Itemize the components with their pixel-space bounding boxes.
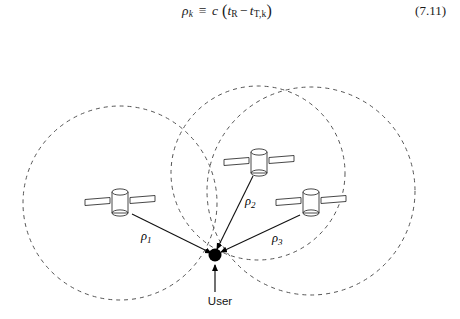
- range-label-2-symbol: ρ: [244, 194, 251, 208]
- range-vector-2: [217, 176, 253, 249]
- equation-lhs-subscript: k: [189, 9, 193, 19]
- equation-close-paren: ): [267, 2, 273, 19]
- range-label-1-symbol: ρ: [140, 229, 147, 243]
- range-label-3-index: 3: [277, 237, 283, 247]
- satellites-group: [85, 149, 346, 216]
- equation-lhs-symbol: ρ: [182, 3, 189, 18]
- equation-speed-symbol: c: [212, 3, 218, 18]
- user-position-dot: [209, 249, 222, 262]
- equation-expression: ρk ≡ c (tR−tT,k): [182, 2, 272, 20]
- satellite-2: [224, 149, 294, 176]
- range-label-3-symbol: ρ: [271, 231, 278, 245]
- equation-term1-subscript: R: [231, 9, 238, 19]
- equation-row: ρk ≡ c (tR−tT,k) (7.11): [0, 2, 460, 24]
- range-vector-3: [221, 215, 300, 252]
- figure-page: ρk ≡ c (tR−tT,k) (7.11): [0, 0, 460, 319]
- range-label-3: ρ3: [271, 231, 283, 247]
- range-label-1-index: 1: [147, 235, 152, 245]
- equation-term2-subscript: T,k: [254, 9, 267, 19]
- range-circles-group: [23, 86, 415, 300]
- range-label-1: ρ1: [140, 229, 152, 245]
- range-label-2: ρ2: [244, 194, 256, 210]
- equation-number: (7.11): [415, 3, 446, 19]
- satellite-1: [85, 189, 155, 216]
- gps-trilateration-figure: ρ1 ρ2 ρ3 User: [0, 24, 460, 319]
- user-label: User: [208, 295, 232, 307]
- range-label-2-index: 2: [251, 200, 256, 210]
- equation-relation: ≡: [197, 3, 209, 18]
- equation-minus: −: [238, 3, 250, 18]
